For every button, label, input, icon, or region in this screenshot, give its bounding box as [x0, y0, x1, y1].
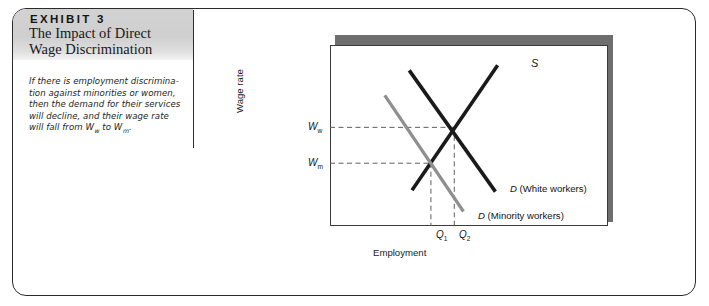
- x-tick-q2-symbol: Q: [459, 229, 467, 240]
- exhibit-caption: If there is employment discrimina- tion …: [29, 76, 181, 134]
- curve-demand-minority: [385, 95, 464, 211]
- demand-minority-curve-label: D (Minority workers): [478, 210, 564, 221]
- caption-subscript-m: m: [122, 127, 129, 134]
- y-tick-ww-subscript: w: [317, 127, 322, 134]
- caption-subscript-w: w: [94, 127, 100, 134]
- y-tick-wm-subscript: m: [317, 163, 323, 170]
- chart-area: Wage rate Employment Ww Wm Q1 Q2 S D (Wh…: [250, 20, 630, 270]
- x-tick-q2-subscript: 2: [467, 235, 471, 242]
- y-axis-title: Wage rate: [234, 69, 245, 113]
- demand-minority-text: (Minority workers): [485, 210, 564, 221]
- demand-minority-symbol: D: [478, 210, 485, 221]
- caption-line-4: will decline, and their wage rate: [29, 111, 169, 121]
- demand-white-text: (White workers): [517, 183, 587, 194]
- demand-white-curve-label: D (White workers): [510, 183, 587, 194]
- exhibit-title-line-1: The Impact of Direct: [29, 25, 151, 41]
- exhibit-page: EXHIBIT 3 The Impact of Direct Wage Disc…: [0, 0, 709, 306]
- y-tick-label-ww: Ww: [308, 121, 322, 132]
- caption-line-5b: to W: [100, 122, 123, 132]
- guide-lines-group: [330, 127, 454, 226]
- demand-white-symbol: D: [510, 183, 517, 194]
- x-tick-label-q2: Q2: [459, 229, 470, 240]
- exhibit-title: The Impact of Direct Wage Discrimination: [29, 26, 189, 57]
- caption-line-5c: .: [129, 122, 132, 132]
- supply-curve-label: S: [531, 57, 538, 69]
- exhibit-number-label: EXHIBIT 3: [30, 13, 106, 25]
- caption-line-2: tion against minorities or women,: [29, 88, 176, 98]
- x-tick-q1-subscript: 1: [444, 235, 448, 242]
- x-tick-q1-symbol: Q: [436, 229, 444, 240]
- curve-lines-group: [385, 65, 498, 211]
- caption-line-1: If there is employment discrimina-: [29, 76, 179, 86]
- x-axis-title: Employment: [373, 247, 426, 258]
- exhibit-title-line-2: Wage Discrimination: [29, 41, 152, 57]
- caption-line-5a: will fall from W: [29, 122, 94, 132]
- x-tick-label-q1: Q1: [436, 229, 447, 240]
- vertical-divider: [193, 10, 194, 148]
- caption-line-3: then the demand for their services: [29, 99, 180, 109]
- y-tick-label-wm: Wm: [308, 157, 323, 168]
